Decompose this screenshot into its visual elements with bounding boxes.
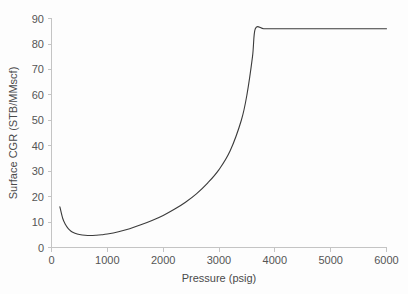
surface-cgr-curve [60, 27, 387, 236]
x-tick-label: 4000 [263, 254, 287, 266]
y-tick-label: 40 [32, 140, 44, 152]
y-tick-label: 20 [32, 191, 44, 203]
y-tick-label: 10 [32, 216, 44, 228]
y-tick-label: 50 [32, 114, 44, 126]
x-tick-label: 0 [48, 254, 54, 266]
y-axis-ticks [48, 19, 52, 248]
x-axis-title: Pressure (psig) [182, 272, 257, 284]
y-tick-label: 90 [32, 13, 44, 25]
x-tick-label: 6000 [374, 254, 398, 266]
x-tick-label: 5000 [318, 254, 342, 266]
chart-canvas: 90 80 70 60 50 40 30 20 10 0 0 1000 2000… [0, 0, 408, 294]
y-axis-tick-labels: 90 80 70 60 50 40 30 20 10 0 [32, 13, 44, 254]
chart-container: 90 80 70 60 50 40 30 20 10 0 0 1000 2000… [0, 0, 408, 294]
y-tick-label: 0 [38, 242, 44, 254]
x-tick-label: 1000 [95, 254, 119, 266]
x-axis-ticks [52, 248, 387, 252]
y-tick-label: 30 [32, 165, 44, 177]
y-tick-label: 80 [32, 38, 44, 50]
x-tick-label: 2000 [151, 254, 175, 266]
x-tick-label: 3000 [207, 254, 231, 266]
x-axis-tick-labels: 0 1000 2000 3000 4000 5000 6000 [48, 254, 398, 266]
y-tick-label: 60 [32, 89, 44, 101]
y-tick-label: 70 [32, 63, 44, 75]
y-axis-title: Surface CGR (STB/MMscf) [7, 67, 19, 200]
